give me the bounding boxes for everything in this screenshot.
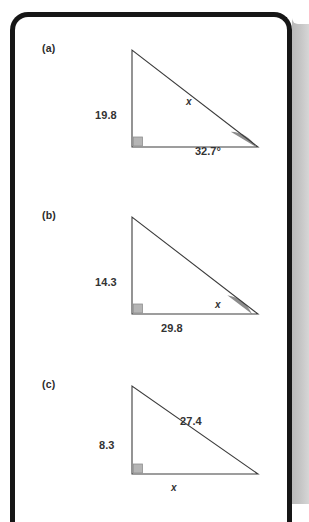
figure-c-vertical-leg-label: 8.3 (99, 439, 115, 451)
figure-b-horizontal-leg-label: 29.8 (161, 322, 183, 334)
figure-c-triangle-diagram (28, 364, 278, 504)
figure-a-hypotenuse-label: x (186, 96, 192, 107)
figure-b-angle-label: x (215, 299, 221, 310)
page-content-area: (a) 19.8 x 32.7° (b) 14.3 (10, 12, 292, 504)
figure-c-right-angle-marker (134, 464, 143, 473)
figure-b-right-angle-marker (134, 304, 143, 313)
figure-a-vertical-leg-label: 19.8 (95, 109, 117, 121)
figure-b-triangle-outline (132, 217, 258, 314)
figure-c-horizontal-leg-label: x (171, 482, 177, 493)
figure-b-triangle-diagram (28, 195, 278, 353)
figure-b-angle-arc (227, 295, 252, 314)
figure-a-right-angle-marker (134, 137, 143, 146)
page-edge-shadow-notch (292, 14, 309, 24)
figure-c-triangle-outline (132, 386, 258, 474)
figure-a-angle-label: 32.7° (195, 145, 221, 157)
figure-a-angle-arc (231, 132, 256, 147)
figure-a-triangle-outline (132, 50, 258, 147)
figure-a-triangle-diagram (28, 28, 278, 178)
figure-a: (a) 19.8 x 32.7° (10, 28, 292, 178)
figure-b-vertical-leg-label: 14.3 (95, 276, 117, 288)
figure-c-hypotenuse-label: 27.4 (180, 415, 202, 427)
figure-c: (c) 8.3 27.4 x (10, 364, 292, 509)
page-edge-shadow (292, 14, 309, 504)
figure-b: (b) 14.3 29.8 x (10, 195, 292, 353)
